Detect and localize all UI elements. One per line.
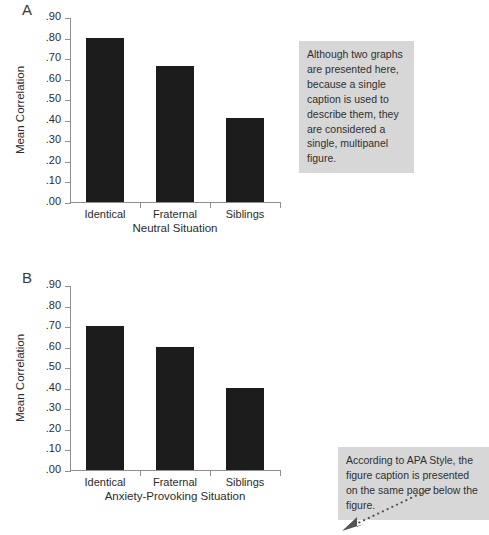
panel-b-ytick-4: .40 [65,389,70,390]
panel-a-ytick-7: .70 [65,59,70,60]
multipanel-figure: A Mean Correlation .00 .10 .20 .30 .40 .… [0,0,489,535]
panel-a-xlabel-identical: Identical [65,208,145,220]
panel-b-xlabel-fraternal: Fraternal [135,476,215,488]
dotted-arrow-icon [330,487,440,535]
panel-a-xlabel-fraternal: Fraternal [135,208,215,220]
panel-b-y-axis-line [70,286,71,472]
panel-b: B Mean Correlation .00 .10 .20 .30 .40 .… [0,268,300,518]
panel-b-ytick-3: .30 [65,409,70,410]
callout-multipanel-note: Although two graphs are presented here, … [299,41,414,173]
panel-b-ytick-5: .50 [65,368,70,369]
panel-b-ytick-2: .20 [65,430,70,431]
panel-a-bar-identical [86,38,124,202]
panel-a-ytick-9: .90 [65,18,70,19]
panel-b-ytick-1: .10 [65,450,70,451]
panel-b-ytick-8: .80 [65,307,70,308]
panel-a-x-axis-line [70,202,281,203]
panel-a-plot-area: .00 .10 .20 .30 .40 .50 .60 .70 .80 .90 … [70,18,280,203]
panel-b-plot-area: .00 .10 .20 .30 .40 .50 .60 .70 .80 .90 … [70,286,280,471]
panel-a-y-axis-line [70,18,71,204]
panel-b-y-axis-title: Mean Correlation [14,313,26,443]
panel-b-bar-identical [86,326,124,470]
panel-a-ytick-3: .30 [65,141,70,142]
panel-b-x-axis-title: Anxiety-Provoking Situation [70,490,280,502]
panel-b-x-axis-line [70,470,281,471]
panel-a-ytick-6: .60 [65,80,70,81]
panel-b-xlabel-siblings: Siblings [205,476,285,488]
panel-a-ytick-0: .00 [65,203,70,204]
panel-b-xlabel-identical: Identical [65,476,145,488]
panel-a-ytick-8: .80 [65,39,70,40]
panel-b-ytick-0: .00 [65,471,70,472]
panel-b-ytick-6: .60 [65,348,70,349]
panel-a-y-axis-title: Mean Correlation [14,45,26,175]
panel-a-xlabel-siblings: Siblings [205,208,285,220]
panel-a-x-axis-title: Neutral Situation [70,222,280,234]
panel-a: A Mean Correlation .00 .10 .20 .30 .40 .… [0,0,300,250]
panel-b-ytick-9: .90 [65,286,70,287]
panel-a-ytick-1: .10 [65,182,70,183]
panel-a-bar-fraternal [156,66,194,202]
panel-a-ytick-2: .20 [65,162,70,163]
panel-b-bar-siblings [226,388,264,470]
panel-a-bar-siblings [226,118,264,202]
panel-a-ytick-5: .50 [65,100,70,101]
panel-a-ytick-4: .40 [65,121,70,122]
panel-b-bar-fraternal [156,347,194,470]
panel-b-ytick-7: .70 [65,327,70,328]
